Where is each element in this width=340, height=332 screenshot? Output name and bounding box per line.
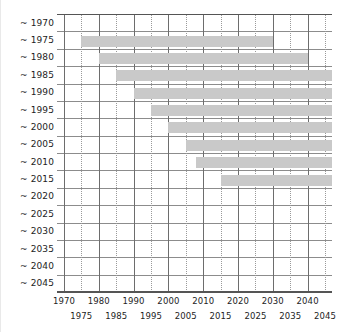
x-axis-tick-label-minor: 2005 [175,311,197,321]
bar [151,105,332,116]
y-axis-tick-label: ~ 2025 [2,209,54,219]
x-axis-tick-label-minor: 1975 [70,311,92,321]
x-axis-tick-label-major: 2030 [262,296,284,306]
y-axis-tick-label: ~ 1970 [2,18,54,28]
x-axis-tick-label-major: 2000 [157,296,179,306]
x-axis-labels: 1970198019902000201020202030204019751985… [0,292,340,332]
x-axis-tick-label-major: 2020 [227,296,249,306]
y-axis-tick-label: ~ 2035 [2,244,54,254]
x-axis-tick-label-minor: 2045 [314,311,336,321]
y-axis-tick-label: ~ 2020 [2,191,54,201]
x-axis-tick-label-minor: 1995 [140,311,162,321]
bar [196,157,332,168]
gridline-minor [325,14,326,292]
x-axis-tick-label-major: 1970 [53,296,75,306]
y-axis-tick-label: ~ 2010 [2,157,54,167]
gridline-major [64,14,65,292]
y-axis-tick-label: ~ 2045 [2,278,54,288]
bar [81,36,272,47]
y-axis-tick-label: ~ 2015 [2,174,54,184]
gridline-major [308,14,309,292]
y-axis-tick-label: ~ 1995 [2,105,54,115]
y-axis-tick-label: ~ 1975 [2,35,54,45]
x-axis-tick-label-minor: 2025 [244,311,266,321]
bar [116,70,332,81]
x-axis-tick-label-minor: 2035 [279,311,301,321]
x-axis-tick-label-major: 2010 [192,296,214,306]
x-axis-tick-label-major: 1990 [123,296,145,306]
y-axis-tick-label: ~ 2040 [2,261,54,271]
bar [221,175,332,186]
x-axis-tick-label-major: 2040 [297,296,319,306]
y-axis-tick-label: ~ 1990 [2,87,54,97]
x-axis-tick-label-minor: 1985 [105,311,127,321]
bar [99,53,308,64]
y-axis-tick-label: ~ 1980 [2,52,54,62]
bar [134,88,332,99]
y-axis-labels: ~ 1970~ 1975~ 1980~ 1985~ 1990~ 1995~ 20… [0,14,54,292]
x-axis-tick-label-major: 1980 [88,296,110,306]
x-axis-tick-label-minor: 2015 [210,311,232,321]
chart-container: ~ 1970~ 1975~ 1980~ 1985~ 1990~ 1995~ 20… [0,0,340,332]
gridline-minor [81,14,82,292]
axis-top-line [57,14,332,15]
y-axis-tick-label: ~ 2000 [2,122,54,132]
y-axis-tick-label: ~ 1985 [2,70,54,80]
bar [186,140,332,151]
bar [168,122,332,133]
y-axis-tick-label: ~ 2030 [2,226,54,236]
plot-area [57,14,332,292]
y-axis-tick-label: ~ 2005 [2,139,54,149]
